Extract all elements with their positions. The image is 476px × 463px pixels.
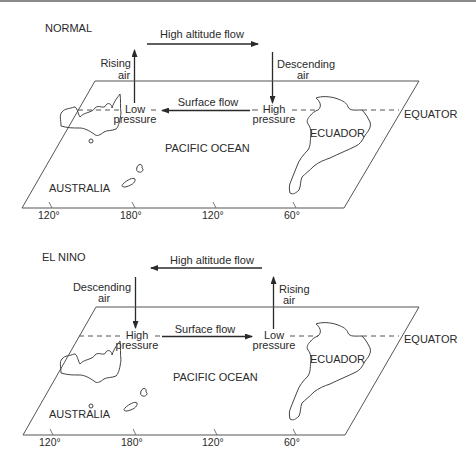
ecuador-label: ECUADOR [310,353,365,365]
vertical-air-label-left-2: air [118,69,131,81]
ecuador-label: ECUADOR [310,127,365,139]
panel-title: EL NINO [42,251,86,263]
vertical-air-label-right-2: air [297,69,310,81]
longitude-tick-icon [213,202,216,208]
surface-flow-label: Surface flow [175,323,236,335]
vertical-air-label-left: Rising [100,57,131,69]
new-zealand-north-icon [141,388,147,396]
longitude-label: 180° [120,209,142,221]
australia-outline-icon [60,94,121,135]
equator-label: EQUATOR [404,108,457,120]
ocean-label: PACIFIC OCEAN [165,142,250,154]
panel-el-nino: EL NINO High altitude flow Descending ai… [23,251,457,448]
australia-outline-icon [60,341,121,382]
surface-flow-label: Surface flow [178,96,239,108]
high-altitude-flow-label: High altitude flow [170,254,254,266]
ocean-label: PACIFIC OCEAN [173,371,258,383]
longitude-tick-icon [214,429,217,435]
longitude-label: 120° [38,209,60,221]
longitude-label: 60° [284,209,300,221]
pressure-label-right-2: pressure [253,339,296,351]
panel-title: NORMAL [45,22,92,34]
australia-label: AUSTRALIA [49,408,111,420]
longitude-label: 60° [284,436,300,448]
vertical-air-label-right-2: air [283,294,296,306]
longitude-tick-icon [50,429,53,435]
high-altitude-flow-label: High altitude flow [160,28,244,40]
south-america-outline-icon [289,97,370,194]
pressure-label-left-2: pressure [116,339,159,351]
tasmania-icon [89,139,93,143]
longitude-label: 180° [121,436,143,448]
longitude-label: 120° [39,436,61,448]
vertical-air-label-left-2: air [98,292,111,304]
new-zealand-south-icon [122,178,135,187]
panel-normal: NORMAL High altitude flow Rising air Des… [22,22,457,221]
longitude-tick-icon [293,429,296,435]
pressure-label-right-2: pressure [253,113,296,125]
longitude-tick-icon [49,202,52,208]
south-america-outline-icon [289,323,370,420]
equator-label: EQUATOR [404,333,457,345]
longitude-tick-icon [133,429,136,435]
new-zealand-south-icon [124,402,137,411]
new-zealand-north-icon [137,164,143,172]
longitude-tick-icon [132,202,135,208]
australia-label: AUSTRALIA [49,182,111,194]
el-nino-diagram: NORMAL High altitude flow Rising air Des… [0,0,476,463]
longitude-label: 120° [202,209,224,221]
longitude-tick-icon [293,202,296,208]
longitude-label: 120° [202,436,224,448]
